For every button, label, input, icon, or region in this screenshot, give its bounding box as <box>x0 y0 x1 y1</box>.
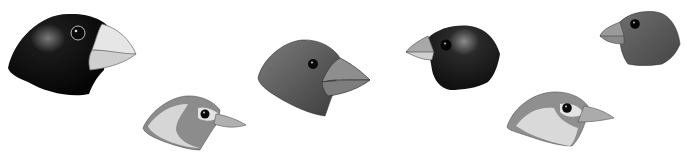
finch-head-small-ground <box>406 26 500 91</box>
finch-head-warbler-left <box>143 96 246 150</box>
finch-head-tree <box>600 12 680 66</box>
finch-head-warbler-right <box>507 92 614 146</box>
finch-head-medium-ground <box>258 40 370 116</box>
finch-head-large-ground <box>8 14 136 95</box>
finch-illustration <box>0 0 687 159</box>
